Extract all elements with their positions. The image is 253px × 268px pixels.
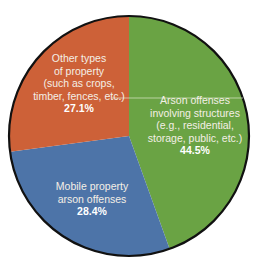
label-line: Mobile property [42, 180, 142, 193]
slice-label-structures: Arson offenses involving structures (e.g… [140, 94, 250, 157]
label-line: Other types [24, 52, 134, 65]
slice-value-other: 27.1% [24, 102, 134, 115]
slice-value-structures: 44.5% [140, 144, 250, 157]
slice-value-mobile: 28.4% [42, 205, 142, 218]
label-line: of property [24, 65, 134, 78]
label-line: Arson offenses [140, 94, 250, 107]
slice-label-other: Other types of property (such as crops, … [24, 52, 134, 115]
label-line: storage, public, etc.) [140, 132, 250, 145]
label-line: (such as crops, [24, 77, 134, 90]
label-line: (e.g., residential, [140, 119, 250, 132]
slice-label-mobile: Mobile property arson offenses 28.4% [42, 180, 142, 218]
label-line: involving structures [140, 107, 250, 120]
label-line: arson offenses [42, 193, 142, 206]
label-line: timber, fences, etc.) [24, 90, 134, 103]
